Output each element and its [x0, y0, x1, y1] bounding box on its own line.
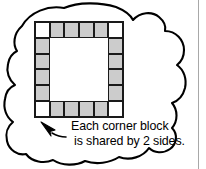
page-rule [0, 0, 206, 169]
callout-figure: Each corner block is shared by 2 sides. [0, 0, 206, 169]
